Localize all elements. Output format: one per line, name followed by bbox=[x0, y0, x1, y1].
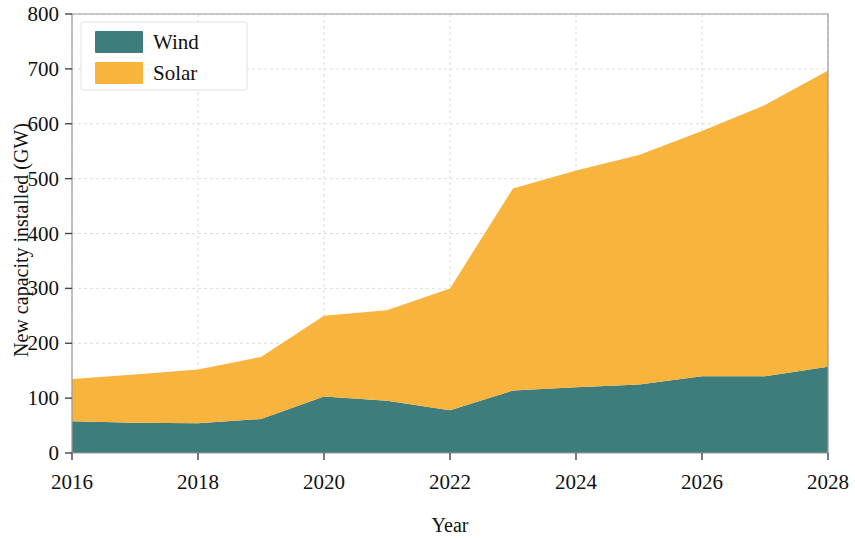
stacked-area-chart: 0100200300400500600700800 20162018202020… bbox=[0, 0, 855, 540]
y-tick-label: 400 bbox=[28, 222, 60, 246]
y-axis-title: New capacity installed (GW) bbox=[10, 123, 33, 357]
x-axis-title: Year bbox=[432, 514, 469, 536]
y-tick-label: 200 bbox=[28, 331, 60, 355]
legend-label-wind: Wind bbox=[153, 30, 199, 54]
y-tick-label: 600 bbox=[28, 112, 60, 136]
x-tick-label: 2016 bbox=[51, 470, 93, 494]
x-tick-label: 2028 bbox=[807, 470, 849, 494]
y-tick-label: 100 bbox=[28, 386, 60, 410]
y-tick-label: 800 bbox=[28, 2, 60, 26]
y-tick-label: 0 bbox=[49, 441, 60, 465]
x-tick-label: 2026 bbox=[681, 470, 723, 494]
chart-legend: Wind Solar bbox=[81, 22, 247, 90]
y-tick-label: 300 bbox=[28, 276, 60, 300]
y-tick-label: 500 bbox=[28, 167, 60, 191]
y-tick-label: 700 bbox=[28, 57, 60, 81]
legend-label-solar: Solar bbox=[153, 61, 197, 85]
legend-swatch-solar bbox=[95, 62, 143, 84]
x-tick-label: 2018 bbox=[177, 470, 219, 494]
chart-container: 0100200300400500600700800 20162018202020… bbox=[0, 0, 855, 540]
x-tick-label: 2022 bbox=[429, 470, 471, 494]
legend-swatch-wind bbox=[95, 31, 143, 53]
x-tick-label: 2020 bbox=[303, 470, 345, 494]
x-tick-label: 2024 bbox=[555, 470, 598, 494]
